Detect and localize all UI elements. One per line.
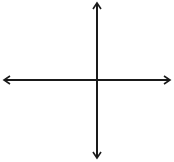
function-graph (0, 0, 174, 162)
axes (4, 3, 170, 158)
